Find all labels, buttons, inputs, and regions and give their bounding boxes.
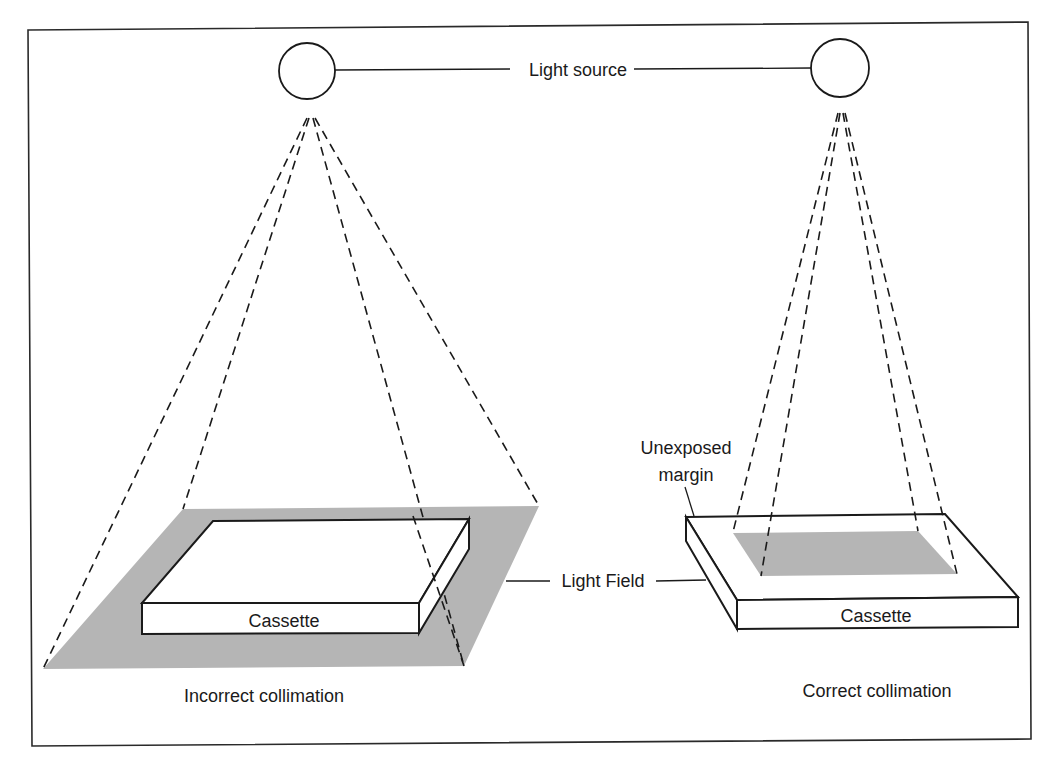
light-source-leader-right (634, 68, 811, 69)
collimation-diagram: Cassette Incorrect collimation (0, 0, 1055, 763)
light-source-icon-left (279, 43, 335, 99)
unexposed-margin-label-line2: margin (658, 465, 713, 485)
unexposed-margin-label-line1: Unexposed (640, 438, 731, 458)
incorrect-collimation-panel: Cassette Incorrect collimation (43, 43, 539, 706)
cassette-label-right: Cassette (840, 606, 911, 626)
incorrect-collimation-caption: Incorrect collimation (184, 686, 344, 706)
light-source-icon-right (811, 39, 869, 97)
light-field-area-right (733, 531, 957, 576)
light-source-leader-left (335, 69, 510, 70)
light-field-label: Light Field (561, 571, 644, 591)
correct-collimation-caption: Correct collimation (802, 681, 951, 701)
light-field-leader-right (656, 580, 706, 581)
cassette-label-left: Cassette (248, 611, 319, 631)
correct-collimation-panel: Cassette Unexposed margin Correct collim… (640, 39, 1018, 701)
beam-lines-right (733, 113, 957, 576)
unexposed-margin-leader (685, 487, 694, 516)
light-source-label: Light source (529, 60, 627, 80)
